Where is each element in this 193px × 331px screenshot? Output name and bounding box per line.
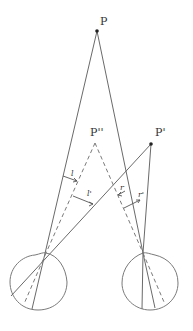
line-pprime-right-eye: [143, 144, 151, 253]
label-pdouble: P'': [90, 126, 103, 139]
line-pprime-right-inner: [143, 253, 155, 308]
label-p: P: [100, 15, 108, 28]
line-right-eye-inner: [142, 253, 143, 309]
dashed-pdouble-left: [46, 143, 95, 253]
point-pprime: [149, 142, 153, 146]
right-eye: [122, 253, 178, 310]
line-pprime-left-eye: [11, 144, 151, 296]
line-p-right-eye: [97, 31, 143, 253]
dashed-pdouble-right: [95, 143, 143, 253]
line-p-left-eye: [32, 31, 97, 309]
label-lprime: l': [87, 189, 92, 198]
point-p: [95, 29, 99, 33]
label-rprime: r': [138, 190, 144, 199]
binocular-diagram: P P'' P' l l' r r': [0, 0, 193, 331]
label-pprime: P': [155, 126, 165, 139]
dashed-right-inner: [143, 253, 164, 302]
label-r: r: [120, 183, 125, 192]
label-l: l: [71, 169, 74, 178]
angle-l-arrow: [63, 176, 77, 182]
